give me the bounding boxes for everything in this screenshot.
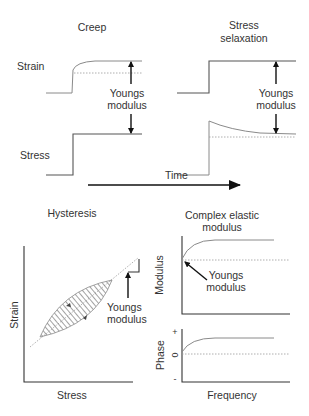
relaxation-title-line1: Stress	[229, 19, 259, 31]
phase-axis-label: Phase	[154, 340, 166, 370]
creep-stress-step	[46, 134, 142, 175]
phase-curve	[182, 338, 274, 352]
slope-indicator	[128, 259, 139, 272]
complex-annotation-line2: modulus	[206, 281, 246, 293]
time-axis: Time	[88, 169, 240, 185]
phase-plus-tick: +	[172, 327, 177, 337]
hysteresis-x-label: Stress	[57, 389, 87, 401]
relaxation-stress-curve	[177, 121, 296, 175]
relaxation-title-line2: selaxation	[220, 32, 267, 44]
hysteresis-annotation-line1: Youngs	[107, 301, 142, 313]
complex-title-line1: Complex elastic	[185, 209, 259, 221]
time-label: Time	[165, 169, 188, 181]
modulus-arrow-icon	[185, 262, 207, 280]
hysteresis-y-label: Strain	[8, 301, 20, 329]
hysteresis-title: Hysteresis	[47, 207, 96, 219]
hysteresis-loop	[40, 280, 112, 337]
modulus-axis-label: Modulus	[153, 255, 165, 295]
relaxation-annotation-line1: Youngs	[259, 87, 294, 99]
modulus-curve	[182, 240, 274, 259]
hysteresis-annotation-line2: modulus	[107, 313, 147, 325]
creep-panel: Creep Strain Stress Youngs modulus	[17, 21, 147, 175]
phase-minus-tick: -	[174, 374, 177, 384]
creep-strain-label: Strain	[17, 60, 45, 72]
creep-title: Creep	[78, 21, 107, 33]
creep-stress-label: Stress	[20, 149, 50, 161]
creep-annotation-line2: modulus	[107, 99, 147, 111]
frequency-label: Frequency	[207, 389, 257, 401]
complex-annotation-line1: Youngs	[209, 269, 244, 281]
creep-annotation-line1: Youngs	[110, 87, 145, 99]
phase-axes	[182, 329, 290, 382]
phase-zero-tick: 0	[170, 352, 180, 357]
complex-title-line2: modulus	[202, 221, 242, 233]
complex-modulus-panel: Complex elastic modulus Modulus Youngs m…	[153, 209, 290, 401]
viscoelasticity-diagram: Creep Strain Stress Youngs modulus Stres…	[0, 0, 309, 416]
hysteresis-panel: Hysteresis Strain Stress Youngs modulus	[8, 207, 147, 401]
relaxation-annotation-line2: modulus	[256, 99, 296, 111]
stress-relaxation-panel: Stress selaxation Youngs modulus	[177, 19, 296, 175]
